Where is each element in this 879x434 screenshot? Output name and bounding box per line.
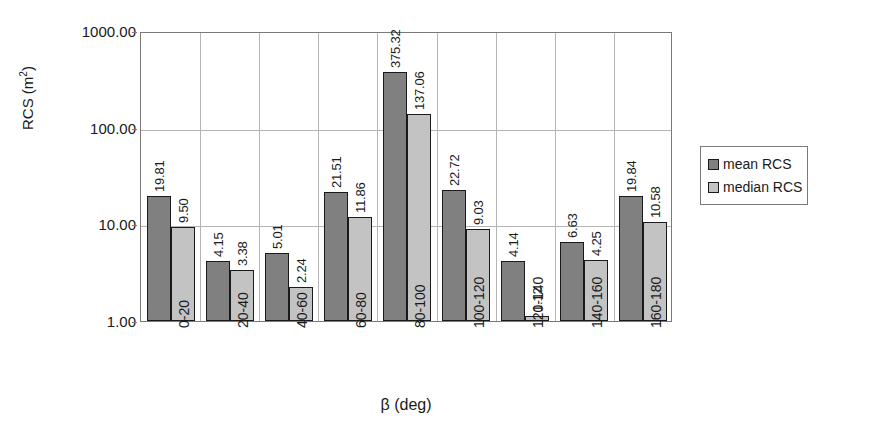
bar-value-label: 19.84 [625, 160, 638, 192]
y-axis-tick-label: 1000.00 [41, 24, 136, 39]
bar-group: 6.634.25 [555, 33, 614, 321]
chart-legend: mean RCSmedian RCS [700, 146, 808, 205]
bar-value-label: 6.63 [566, 213, 579, 238]
bar-mean [383, 72, 407, 321]
legend-item: mean RCS [708, 157, 801, 171]
bar-mean [619, 196, 643, 321]
bar-value-label: 19.81 [153, 160, 166, 192]
legend-swatch-icon [708, 182, 719, 193]
bar-value-label: 2.24 [295, 259, 308, 284]
bar-value-label: 11.86 [354, 183, 367, 214]
x-axis-tick-label: 0-20 [177, 300, 191, 328]
x-axis-tick-label: 100-120 [472, 277, 486, 328]
bar-mean [442, 190, 466, 321]
y-axis-tick-mark [132, 225, 137, 226]
y-axis-tick-label: 10.00 [41, 217, 136, 232]
x-axis-tick-label: 40-60 [295, 292, 309, 328]
rcs-bar-chart: 1000.00100.0010.001.00 RCS (m2) 19.819.5… [0, 0, 879, 434]
bar-group: 5.012.24 [259, 33, 318, 321]
bar-value-label: 9.03 [472, 200, 485, 225]
y-axis-title: RCS (m2) [18, 66, 36, 130]
bar-value-label: 10.58 [649, 186, 662, 218]
legend-swatch-icon [708, 159, 719, 170]
bar-value-label: 22.72 [448, 154, 461, 186]
x-axis-tick-label: 60-80 [354, 292, 368, 328]
x-axis-title: β (deg) [140, 396, 672, 414]
y-axis-tick-mark [132, 32, 137, 33]
bar-group: 4.153.38 [200, 33, 259, 321]
bar-mean [560, 242, 584, 321]
bar-value-label: 4.25 [590, 232, 603, 257]
bar-group: 19.8410.58 [614, 33, 673, 321]
y-axis-tick-label: 100.00 [41, 121, 136, 136]
bar-mean [501, 261, 525, 321]
bar-value-label: 3.38 [236, 241, 249, 266]
x-axis-tick-label: 140-160 [590, 277, 604, 328]
bar-value-label: 375.32 [389, 30, 402, 69]
legend-item: median RCS [708, 180, 801, 194]
bar-value-label: 4.15 [212, 233, 225, 258]
bar-value-label: 9.50 [177, 198, 190, 223]
x-axis-tick-label: 160-180 [649, 277, 663, 328]
bar-mean [265, 253, 289, 321]
y-axis-tick-mark [132, 322, 137, 323]
bar-group: 21.5111.86 [318, 33, 377, 321]
y-axis-tick-mark [132, 129, 137, 130]
x-axis-tick-label: 80-100 [413, 284, 427, 328]
bar-value-label: 5.01 [271, 225, 284, 250]
bar-value-label: 137.06 [413, 72, 426, 111]
bar-value-label: 21.51 [330, 157, 343, 189]
bar-mean [206, 261, 230, 321]
legend-label: median RCS [723, 180, 802, 194]
y-axis-tick-label: 1.00 [41, 314, 136, 329]
bar-mean [147, 196, 171, 321]
bar-value-label: 4.14 [507, 233, 520, 258]
bar-mean [324, 192, 348, 321]
bar-group: 375.32137.06 [377, 33, 436, 321]
x-axis-tick-label: 120-140 [531, 277, 545, 328]
x-axis-tick-label: 20-40 [236, 292, 250, 328]
bar-group: 19.819.50 [141, 33, 200, 321]
legend-label: mean RCS [723, 157, 791, 171]
